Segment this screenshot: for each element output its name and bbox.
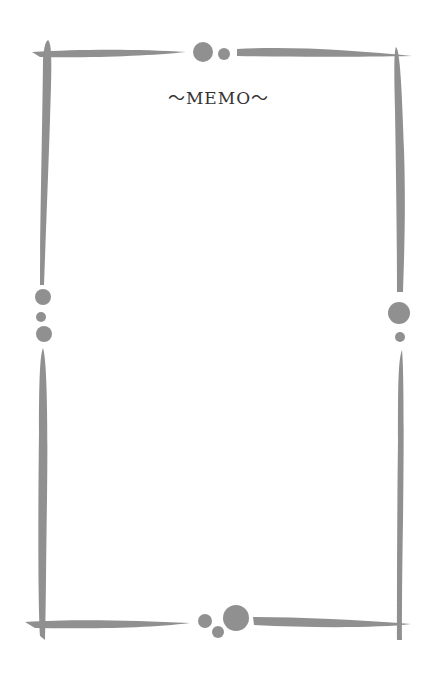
frame-dot xyxy=(36,312,46,322)
frame-dot xyxy=(198,614,212,628)
frame-dot xyxy=(223,605,249,631)
frame-dot xyxy=(388,302,410,324)
frame-dot xyxy=(218,48,230,60)
frame-stroke-right-bottom xyxy=(397,350,404,640)
memo-title: ～MEMO～ xyxy=(0,84,437,109)
frame-stroke-left-bottom xyxy=(38,348,47,640)
frame-dot xyxy=(395,332,405,342)
frame-stroke-bottom-left xyxy=(25,620,190,628)
frame-dot xyxy=(36,326,52,342)
frame-dot xyxy=(35,289,51,305)
frame-stroke-bottom-right xyxy=(253,617,411,627)
frame-stroke-top-right xyxy=(237,48,412,57)
frame-dot xyxy=(212,626,224,638)
frame-stroke-left-top xyxy=(40,40,51,285)
frame-dot xyxy=(193,42,213,62)
frame-stroke-top-left xyxy=(32,50,186,58)
